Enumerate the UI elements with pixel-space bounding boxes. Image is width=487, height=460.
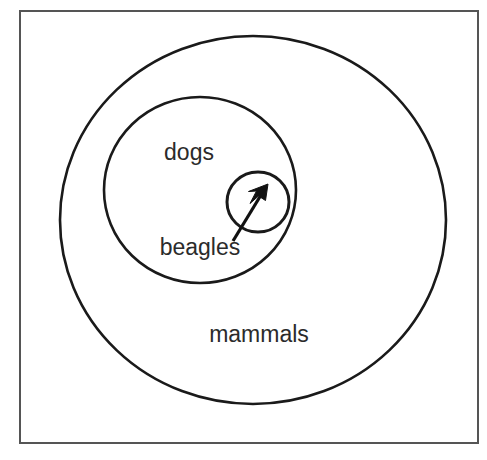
euler-diagram-canvas: dogs beagles mammals <box>0 0 487 460</box>
label-dogs: dogs <box>164 139 214 165</box>
diagram-frame-border <box>20 11 478 443</box>
label-beagles: beagles <box>160 234 241 260</box>
label-mammals: mammals <box>209 321 309 347</box>
figure-root: dogs beagles mammals <box>0 0 487 460</box>
